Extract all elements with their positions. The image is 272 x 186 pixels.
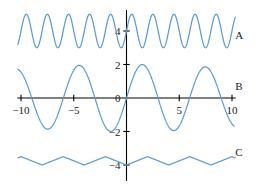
x-axis-tick-labels: −10−5510 — [12, 104, 238, 116]
plot-canvas: −10−5510 420−2−4 A B C — [0, 0, 272, 186]
x-tick-label--5: −5 — [68, 104, 80, 116]
axes-group — [17, 10, 235, 181]
y-tick-label-0: 0 — [115, 92, 121, 104]
x-tick-label-10: 10 — [227, 104, 239, 116]
curve-label-c: C — [235, 146, 242, 158]
chart-figure: −10−5510 420−2−4 A B C — [0, 0, 272, 186]
x-tick-label--10: −10 — [12, 104, 30, 116]
curve-label-a: A — [235, 29, 243, 41]
x-tick-label-5: 5 — [177, 104, 183, 116]
curve-label-b: B — [235, 80, 242, 92]
curve-labels-group: A B C — [235, 29, 243, 158]
y-tick-label-2: 2 — [115, 59, 121, 71]
